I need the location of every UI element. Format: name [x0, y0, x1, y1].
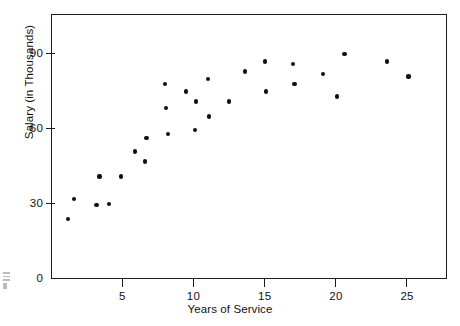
x-axis-tick-label: 20: [329, 290, 342, 302]
x-axis-tick-mark: [335, 279, 336, 287]
x-axis-tick-mark: [406, 279, 407, 287]
x-axis-tick-label: 15: [258, 290, 271, 302]
y-axis-tick-mark: [46, 203, 55, 204]
plot-area-frame: [51, 14, 447, 279]
x-axis-tick-label: 25: [401, 290, 414, 302]
x-axis-tick-mark: [122, 279, 123, 287]
y-axis-title: Salary (in Thousands): [23, 0, 35, 167]
x-axis-title: Years of Service: [0, 303, 460, 315]
scatter-plot-figure: 0306090 510152025 Salary (in Thousands) …: [0, 0, 460, 326]
y-axis-tick-mark: [46, 53, 55, 54]
x-axis-tick-label: 5: [119, 290, 126, 302]
y-axis-tick-label: 0: [36, 273, 43, 285]
x-axis-tick-mark: [193, 279, 194, 287]
page-margin-artifact: [3, 272, 10, 300]
y-axis-tick-mark: [46, 128, 55, 129]
y-axis-tick-label: 30: [30, 198, 43, 210]
x-axis-tick-mark: [264, 279, 265, 287]
x-axis-tick-label: 10: [187, 290, 200, 302]
